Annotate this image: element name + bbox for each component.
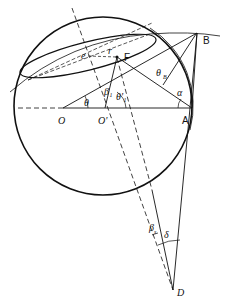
label-F: F [124, 52, 130, 63]
label-theta1-prime: θ'₁ [116, 91, 127, 102]
dashed-e-r [88, 56, 117, 57]
label-theta-B: θ [156, 67, 161, 78]
label-beta-s-sub: s [154, 229, 157, 235]
diagram-canvas: B F O O' A D e r θ β₁ θ'₁ θ B α β s δ [0, 0, 230, 304]
label-alpha: α [177, 87, 183, 98]
label-D: D [176, 287, 185, 298]
label-A: A [182, 115, 189, 126]
label-O: O [58, 115, 65, 126]
label-beta1: β₁ [103, 86, 112, 97]
point-F [116, 56, 119, 59]
dashed-chord-1 [28, 23, 152, 80]
label-theta: θ [84, 97, 89, 108]
line-to-D-1 [152, 190, 173, 290]
arrow-to-B [163, 34, 196, 85]
arc-delta [158, 240, 180, 245]
label-O-prime: O' [98, 115, 108, 126]
label-r: r [108, 45, 112, 56]
dashed-F-down [117, 58, 152, 190]
dashed-axis-Oprime [72, 8, 173, 290]
label-theta-B-sub: B [163, 74, 167, 80]
main-circle [14, 17, 192, 195]
label-e: e [81, 50, 86, 61]
label-delta: δ [164, 229, 169, 240]
cap-ellipse [17, 25, 160, 86]
label-B: B [203, 35, 210, 46]
